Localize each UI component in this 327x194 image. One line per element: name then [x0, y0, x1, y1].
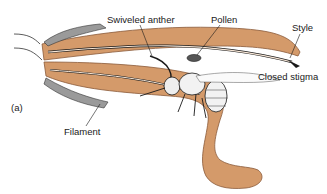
- flower-illustration: [0, 0, 327, 194]
- label-filament: Filament: [64, 127, 100, 137]
- flower-pollination-diagram: Swiveled anther Pollen Style Closed stig…: [0, 0, 327, 194]
- label-swiveled-anther: Swiveled anther: [107, 15, 175, 25]
- panel-label: (a): [11, 103, 23, 113]
- label-pollen: Pollen: [211, 15, 237, 25]
- label-closed-stigma: Closed stigma: [258, 72, 318, 82]
- label-style: Style: [292, 23, 313, 33]
